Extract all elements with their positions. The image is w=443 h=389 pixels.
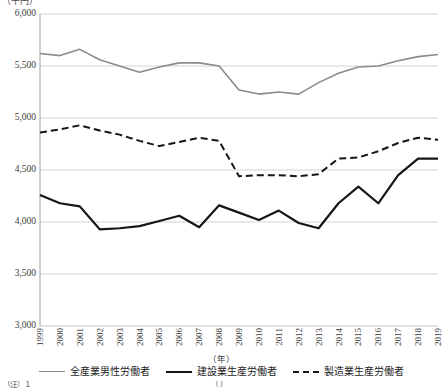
x-tick-label: 2003 — [115, 328, 124, 346]
x-tick-label: 2009 — [235, 328, 244, 346]
x-tick-label: 2017 — [394, 328, 403, 346]
series-line — [40, 159, 438, 230]
series-line — [40, 49, 438, 94]
series-line — [40, 125, 438, 176]
plot-area — [40, 14, 438, 326]
y-tick-label: 5,500 — [15, 61, 36, 71]
x-tick-label: 2018 — [414, 328, 423, 346]
legend-swatch-icon — [39, 371, 65, 372]
legend-entry: 建設業生産労働者 — [166, 366, 277, 377]
y-tick-label: 4,500 — [15, 165, 36, 175]
x-tick-label: 2005 — [155, 328, 164, 346]
series-lines — [40, 14, 438, 326]
y-tick-label: 3,000 — [15, 321, 36, 331]
x-tick-label: 2015 — [354, 328, 363, 346]
x-tick-label: 1999 — [36, 328, 45, 346]
y-tick-label: 6,000 — [15, 9, 36, 19]
legend-label: 製造業生産労働者 — [324, 366, 404, 377]
x-axis: 1999200020012002200320042005200620072008… — [40, 328, 438, 358]
line-chart-figure: （千円） 6,0005,5005,0004,5004,0003,5003,000… — [0, 0, 443, 389]
y-tick-label: 4,000 — [15, 217, 36, 227]
x-axis-unit-label: （年） — [0, 355, 443, 364]
y-tick-label: 3,500 — [15, 269, 36, 279]
legend-swatch-icon — [166, 371, 192, 373]
x-tick-label: 2010 — [254, 328, 263, 346]
x-tick-label: 2000 — [55, 328, 64, 346]
chart-legend: 全産業男性労働者建設業生産労働者製造業生産労働者 — [0, 366, 443, 377]
legend-label: 建設業生産労働者 — [197, 366, 277, 377]
x-tick-label: 2001 — [75, 328, 84, 346]
x-tick-label: 2019 — [434, 328, 443, 346]
legend-entry: 全産業男性労働者 — [39, 366, 150, 377]
x-tick-label: 2007 — [195, 328, 204, 346]
legend-entry: 製造業生産労働者 — [293, 366, 404, 377]
y-tick-label: 5,000 — [15, 113, 36, 123]
x-tick-label: 2014 — [334, 328, 343, 346]
source-note: （注）１ （ ） — [3, 381, 443, 389]
x-tick-label: 2006 — [175, 328, 184, 346]
x-tick-label: 2004 — [135, 328, 144, 346]
x-tick-label: 2016 — [374, 328, 383, 346]
x-tick-label: 2002 — [95, 328, 104, 346]
x-tick-label: 2013 — [314, 328, 323, 346]
x-tick-label: 2008 — [215, 328, 224, 346]
x-tick-label: 2012 — [294, 328, 303, 346]
x-tick-label: 2011 — [274, 328, 283, 346]
y-axis: 6,0005,5005,0004,5004,0003,5003,000 — [0, 0, 40, 326]
legend-swatch-icon — [293, 371, 319, 373]
legend-label: 全産業男性労働者 — [70, 366, 150, 377]
